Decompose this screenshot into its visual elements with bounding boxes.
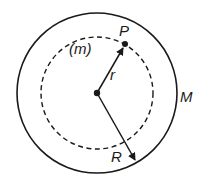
label-p: P [119,22,129,39]
label-mass-m: (m) [69,40,92,57]
label-shell-mass-M: M [180,88,193,105]
diagram-canvas: P (m) r M R [0,0,210,187]
label-r: r [110,66,116,83]
center-point [94,90,100,96]
label-R: R [111,148,122,165]
point-p-dot [122,41,128,47]
